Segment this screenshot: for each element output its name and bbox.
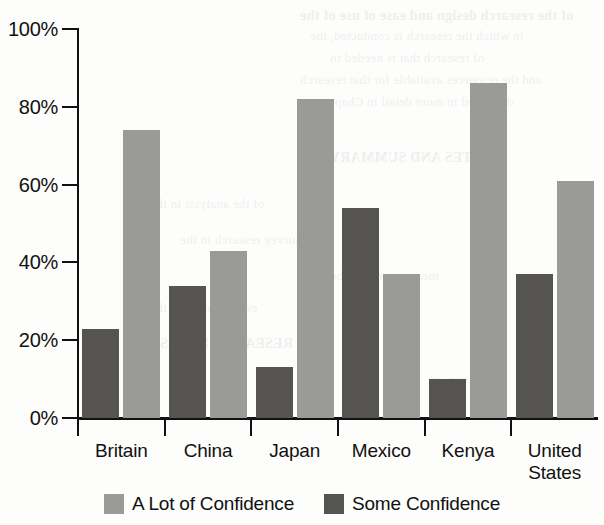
y-axis-tick bbox=[62, 106, 78, 108]
legend-swatch-icon bbox=[324, 494, 344, 514]
bar-japan-some-confidence bbox=[256, 367, 293, 418]
x-axis-category-label-mexico: Mexico bbox=[338, 440, 425, 462]
x-axis-tick bbox=[250, 419, 252, 436]
x-axis-label-line: Japan bbox=[251, 440, 338, 462]
y-axis-tick-label: 20% bbox=[0, 329, 58, 352]
y-axis-tick-label: 40% bbox=[0, 251, 58, 274]
bar-kenya-some-confidence bbox=[429, 379, 466, 418]
x-axis-category-label-china: China bbox=[165, 440, 252, 462]
x-axis-label-line: United bbox=[511, 440, 598, 462]
legend-label: A Lot of Confidence bbox=[132, 493, 294, 515]
y-axis-tick bbox=[62, 28, 78, 30]
x-axis-label-line: States bbox=[511, 462, 598, 484]
bar-japan-a-lot-of-confidence bbox=[297, 99, 334, 418]
x-axis-category-label-britain: Britain bbox=[78, 440, 165, 462]
bar-united-states-some-confidence bbox=[516, 274, 553, 418]
y-axis-tick-label: 100% bbox=[0, 18, 58, 41]
x-axis-category-label-united-states: UnitedStates bbox=[511, 440, 598, 484]
y-axis-tick bbox=[62, 261, 78, 263]
bar-kenya-a-lot-of-confidence bbox=[470, 83, 507, 418]
y-axis-tick bbox=[62, 184, 78, 186]
y-axis-tick-label: 60% bbox=[0, 173, 58, 196]
x-axis-label-line: China bbox=[165, 440, 252, 462]
x-axis-tick bbox=[424, 419, 426, 436]
x-axis-label-line: Kenya bbox=[425, 440, 512, 462]
x-axis-tick bbox=[77, 419, 79, 436]
legend-label: Some Confidence bbox=[352, 493, 500, 515]
bar-china-a-lot-of-confidence bbox=[210, 251, 247, 418]
y-axis-tick-label: 0% bbox=[0, 407, 58, 430]
bar-china-some-confidence bbox=[169, 286, 206, 418]
x-axis-category-label-japan: Japan bbox=[251, 440, 338, 462]
x-axis-tick bbox=[510, 419, 512, 436]
x-axis-label-line: Mexico bbox=[338, 440, 425, 462]
bar-mexico-a-lot-of-confidence bbox=[383, 274, 420, 418]
legend-swatch-icon bbox=[104, 494, 124, 514]
plot-area bbox=[78, 29, 598, 418]
bar-britain-a-lot-of-confidence bbox=[123, 130, 160, 418]
bar-united-states-a-lot-of-confidence bbox=[557, 181, 594, 418]
x-axis-label-line: Britain bbox=[78, 440, 165, 462]
legend-item-some-confidence: Some Confidence bbox=[324, 493, 500, 515]
y-axis-tick bbox=[62, 339, 78, 341]
bar-britain-some-confidence bbox=[82, 329, 119, 418]
bar-chart: 0%20%40%60%80%100% BritainChinaJapanMexi… bbox=[0, 0, 604, 525]
y-axis-tick bbox=[62, 417, 78, 419]
y-axis-tick-label: 80% bbox=[0, 95, 58, 118]
legend-item-a-lot-of-confidence: A Lot of Confidence bbox=[104, 493, 294, 515]
x-axis-category-label-kenya: Kenya bbox=[425, 440, 512, 462]
x-axis-tick bbox=[164, 419, 166, 436]
x-axis-tick bbox=[337, 419, 339, 436]
bar-mexico-some-confidence bbox=[342, 208, 379, 418]
chart-legend: A Lot of ConfidenceSome Confidence bbox=[0, 493, 604, 515]
